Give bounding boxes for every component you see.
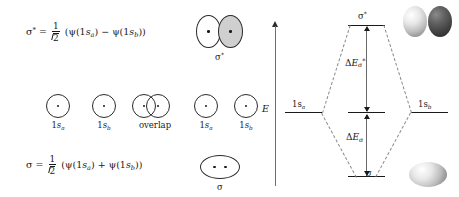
bonding-eq-operator: + <box>98 159 106 170</box>
overlap-label: overlap <box>125 120 185 130</box>
sigma-bonding-blob <box>409 162 447 187</box>
dashed-right-to-antibonding <box>383 25 411 113</box>
1s-b-mid-label: 1sb <box>228 120 264 131</box>
antibonding-eq-psi1: ψ(1 <box>68 26 85 37</box>
bonding-eq-denominator: 2 <box>49 166 57 176</box>
bonding-eq-psi1: ψ(1 <box>65 159 82 170</box>
antibonding-eq-operator: − <box>101 26 109 37</box>
1s-b-orbital-label: 1sb <box>86 120 122 131</box>
bonding-gap-arrow-top <box>364 114 370 119</box>
bonding-equation: σ = 1 2 (ψ(1sa) + ψ(1sb)) <box>26 155 142 177</box>
sigma-orbital-label: σ <box>200 181 240 192</box>
sigma-star-left-nucleus-dot <box>207 30 210 33</box>
left-atomic-level-label: 1sa <box>292 99 305 110</box>
antibonding-equation: σ* = 1 2 (ψ(1sa) − ψ(1sb)) <box>26 22 146 44</box>
left-atomic-level <box>285 112 322 113</box>
dashed-left-to-antibonding <box>322 25 350 113</box>
sigma-right-nucleus-dot <box>224 166 227 169</box>
bonding-eq-fraction: 1 2 <box>49 155 57 177</box>
right-atomic-level-label: 1sb <box>418 99 432 110</box>
bonding-eq-psi2: ψ(1 <box>109 159 126 170</box>
antibonding-eq-fraction: 1 2 <box>52 22 60 44</box>
1s-b-orbital-mid <box>234 94 258 118</box>
bonding-eq-psi1-close: ) <box>91 159 95 170</box>
1s-a-orbital <box>46 94 70 118</box>
antibonding-eq-denominator: 2 <box>52 33 60 43</box>
antibonding-gap-arrow-bottom <box>364 107 370 112</box>
sigma-orbital-ellipse <box>200 155 240 179</box>
sigma-star-lobe-dark <box>428 6 452 37</box>
bonding-eq-numerator: 1 <box>49 155 57 164</box>
sigma-star-lobe-light <box>403 6 427 37</box>
antibonding-eq-numerator: 1 <box>52 22 60 31</box>
antibonding-eq-psi2: ψ(1 <box>112 26 129 37</box>
antibonding-gap-arrow-top <box>364 26 370 31</box>
antibonding-eq-close-paren: ) <box>142 26 146 37</box>
energy-axis-label: E <box>262 103 269 114</box>
antibonding-eq-lhs-star: * <box>33 26 36 34</box>
bonding-eq-lhs: σ <box>26 159 33 170</box>
1s-a-orbital-mid <box>194 94 218 118</box>
sigma-star-right-nucleus-dot <box>229 30 232 33</box>
right-atomic-level <box>411 112 448 113</box>
antibonding-gap-label: ΔEσ* <box>345 57 365 68</box>
bonding-eq-close-paren: ) <box>139 159 143 170</box>
antibonding-eq-radicand: 2 <box>53 33 59 43</box>
bonding-gap-line <box>366 115 367 176</box>
antibonding-level-label: σ* <box>358 10 367 21</box>
bonding-gap-label: ΔEσ <box>346 132 363 143</box>
nonbonding-reference-level <box>348 112 385 113</box>
energy-axis-line <box>275 26 276 186</box>
sigma-left-nucleus-dot <box>213 166 216 169</box>
antibonding-eq-equals: = <box>39 26 47 37</box>
bonding-eq-equals: = <box>36 159 44 170</box>
sigma-star-orbital-label: σ* <box>196 51 243 62</box>
bonding-eq-radicand: 2 <box>50 166 56 176</box>
mo-diagram-figure: σ* = 1 2 (ψ(1sa) − ψ(1sb)) σ = 1 2 (ψ(1s… <box>0 0 459 197</box>
antibonding-eq-psi1-close: ) <box>94 26 98 37</box>
antibonding-gap-line <box>366 28 367 111</box>
dashed-left-to-bonding <box>321 113 356 177</box>
1s-a-orbital-label: 1sa <box>40 120 76 131</box>
bonding-gap-arrow-bottom <box>364 171 370 176</box>
sigma-orbital-2d <box>200 155 240 179</box>
1s-a-mid-label: 1sa <box>188 120 224 131</box>
1s-b-orbital <box>92 94 116 118</box>
dashed-right-to-bonding <box>376 112 411 176</box>
